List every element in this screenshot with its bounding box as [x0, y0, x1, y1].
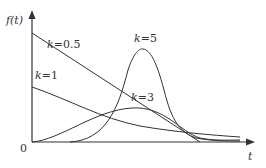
- label-k-1: k=1: [35, 69, 58, 82]
- chart: f(t) t 0 k=0.5 k=1 k=3 k=5: [0, 0, 266, 168]
- y-axis-label: f(t): [5, 14, 23, 27]
- y-axis-arrow-icon: [29, 10, 36, 19]
- x-axis-arrow-icon: [246, 139, 255, 146]
- label-k-0.5: k=0.5: [47, 38, 80, 51]
- origin-label: 0: [20, 142, 27, 155]
- label-k-5: k=5: [134, 32, 157, 45]
- label-k-3: k=3: [131, 91, 154, 104]
- x-axis-label: t: [248, 150, 253, 163]
